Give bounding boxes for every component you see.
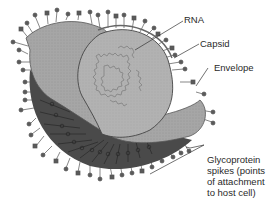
label-envelope: Envelope <box>214 62 254 73</box>
virus-diagram: RNA Capsid Envelope Glycoprotein spikes … <box>0 0 271 201</box>
label-capsid: Capsid <box>200 38 230 49</box>
label-spikes-line4: to host cell) <box>207 187 271 198</box>
label-spikes-line3: of attachment <box>207 176 271 187</box>
label-rna: RNA <box>184 14 204 25</box>
label-spikes-line2: spikes (points <box>207 165 271 176</box>
label-spikes-line1: Glycoprotein <box>207 154 271 165</box>
label-glycoprotein-spikes: Glycoprotein spikes (points of attachmen… <box>207 154 271 198</box>
